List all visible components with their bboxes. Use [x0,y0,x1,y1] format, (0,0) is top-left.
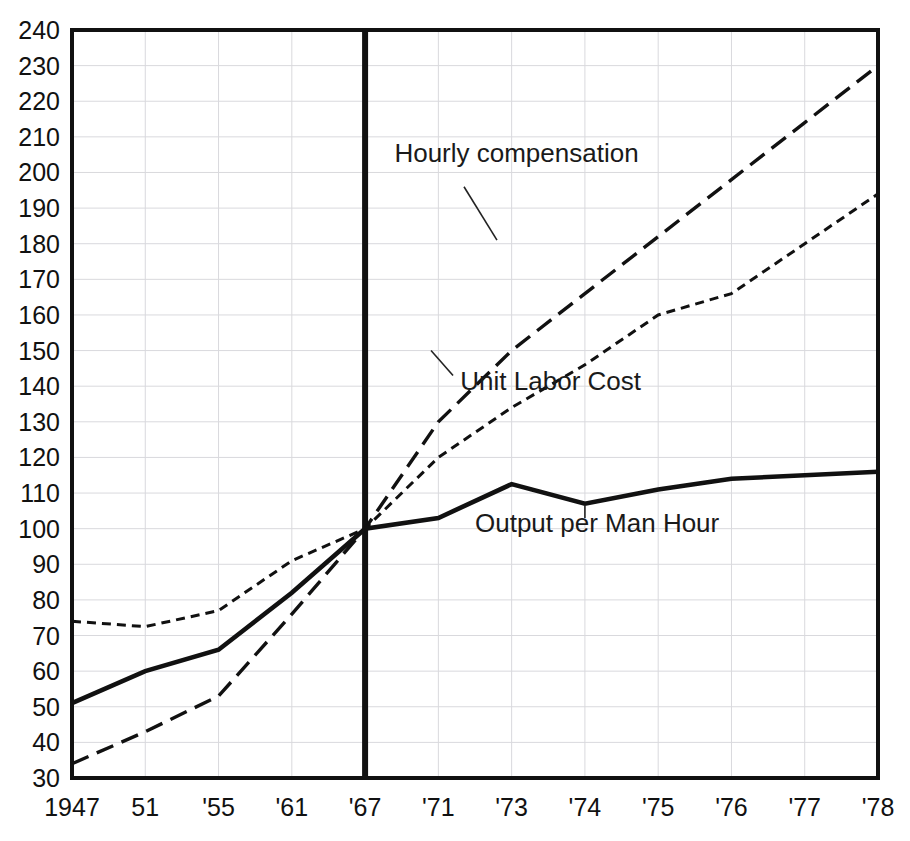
y-tick-label: 100 [18,515,60,543]
x-tick-label: '76 [715,793,748,821]
y-tick-label: 200 [18,158,60,186]
y-tick-label: 240 [18,16,60,44]
y-tick-label: 70 [32,622,60,650]
y-tick-label: 30 [32,764,60,792]
y-tick-label: 170 [18,265,60,293]
y-tick-label: 120 [18,443,60,471]
x-tick-label: '75 [642,793,675,821]
x-tick-label: '61 [276,793,309,821]
y-tick-label: 80 [32,586,60,614]
y-tick-label: 50 [32,693,60,721]
y-tick-label: 210 [18,123,60,151]
y-tick-label: 150 [18,337,60,365]
x-tick-label: '77 [788,793,821,821]
x-tick-label: 51 [131,793,159,821]
x-tick-label: '78 [862,793,895,821]
x-tick-label: 1947 [44,793,100,821]
y-tick-label: 60 [32,657,60,685]
series-label-unit-labor-cost: Unit Labor Cost [460,366,641,396]
y-tick-label: 140 [18,372,60,400]
series-label-hourly-compensation: Hourly compensation [394,138,638,168]
y-tick-label: 110 [20,479,60,507]
x-tick-label: '67 [349,793,382,821]
y-tick-label: 40 [32,728,60,756]
chart-background [0,0,910,841]
x-tick-label: '73 [495,793,528,821]
y-tick-label: 160 [18,301,60,329]
y-tick-label: 130 [18,408,60,436]
chart-container: 2402302202102001901801701601501401301201… [0,0,910,841]
x-tick-label: '71 [422,793,455,821]
x-tick-label: '55 [202,793,235,821]
y-tick-label: 190 [18,194,60,222]
y-tick-label: 230 [18,52,60,80]
y-tick-label: 180 [18,230,60,258]
y-tick-label: 220 [18,87,60,115]
x-tick-label: '74 [569,793,602,821]
y-tick-label: 90 [32,550,60,578]
series-label-output-per-man-hour: Output per Man Hour [475,508,720,538]
index-line-chart: 2402302202102001901801701601501401301201… [0,0,910,841]
